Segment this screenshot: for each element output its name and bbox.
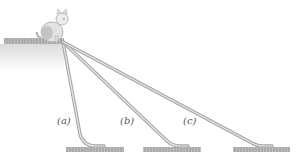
ground-b <box>143 147 201 152</box>
cat-icon <box>37 9 68 42</box>
ground-a <box>66 147 124 152</box>
ground-c <box>233 147 290 152</box>
slide-b <box>63 42 188 146</box>
physics-diagram: (a) (b) (c) <box>0 0 296 163</box>
label-c: (c) <box>183 115 197 126</box>
ledge <box>0 38 64 72</box>
label-b: (b) <box>120 115 134 126</box>
slide-a <box>63 42 104 146</box>
slide-c <box>63 42 272 146</box>
label-a: (a) <box>57 115 71 126</box>
